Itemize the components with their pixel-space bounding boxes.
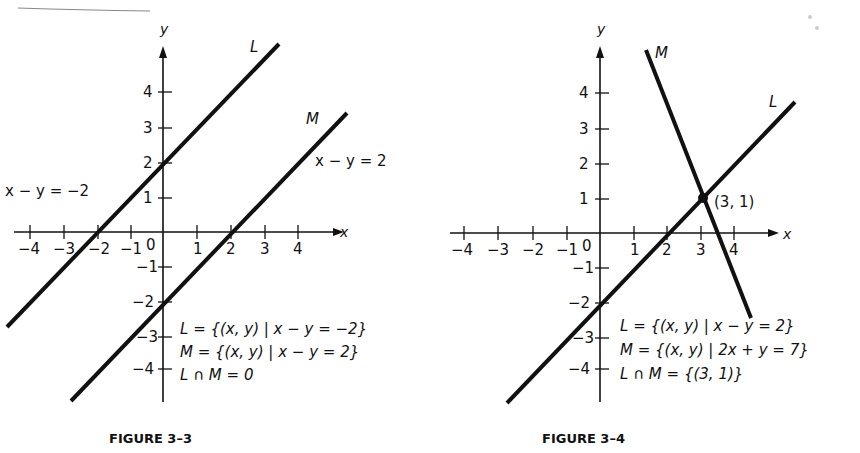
svg-text:3: 3 (696, 241, 706, 259)
x-axis-label: x (782, 226, 792, 242)
y-axis-label: y (596, 21, 606, 37)
y-axis-arrow-icon (159, 46, 167, 58)
svg-text:4: 4 (729, 241, 739, 259)
svg-text:−4: −4 (451, 241, 473, 259)
svg-text:−3: −3 (487, 241, 509, 259)
header-rule (18, 8, 150, 11)
svg-text:0: 0 (582, 237, 592, 255)
svg-text:4: 4 (579, 84, 589, 102)
svg-text:4: 4 (143, 83, 153, 101)
svg-text:4: 4 (293, 240, 303, 258)
svg-text:3: 3 (260, 240, 270, 258)
svg-text:−4: −4 (568, 360, 590, 378)
svg-text:L = {(x, y) | x − y = 2}: L = {(x, y) | x − y = 2} (620, 317, 795, 335)
line-M-label: M (655, 44, 668, 62)
svg-text:2: 2 (143, 154, 153, 172)
svg-text:M = {(x, y) | 2x + y = 7}: M = {(x, y) | 2x + y = 7} (620, 341, 809, 359)
line-L-label: L (250, 38, 258, 56)
svg-text:0: 0 (146, 236, 156, 254)
svg-text:−2: −2 (522, 241, 544, 259)
svg-text:L ∩ M = {(3, 1)}: L ∩ M = {(3, 1)} (620, 365, 743, 383)
figure-caption: FIGURE 3–4 (542, 431, 625, 446)
x-tick-labels: −4 −3 −2 −1 0 1 2 3 4 (18, 236, 303, 258)
svg-text:−2: −2 (88, 240, 110, 258)
svg-text:−1: −1 (572, 259, 594, 277)
svg-text:−2: −2 (568, 294, 590, 312)
figures-canvas: x y −4 −3 −2 −1 0 1 2 3 4 4 (0, 0, 860, 453)
svg-text:1: 1 (630, 241, 640, 259)
x-axis-arrow-icon (768, 229, 779, 237)
svg-text:−2: −2 (132, 293, 154, 311)
svg-text:1: 1 (579, 190, 589, 208)
svg-text:L ∩ M = 0: L ∩ M = 0 (180, 366, 253, 384)
intersection-point (698, 193, 708, 203)
svg-text:−3: −3 (53, 240, 75, 258)
y-axis-arrow-icon (596, 46, 604, 58)
set-definitions: L = {(x, y) | x − y = 2} M = {(x, y) | 2… (620, 317, 809, 383)
y-ticks (158, 92, 172, 369)
svg-text:1: 1 (193, 240, 203, 258)
svg-text:−1: −1 (556, 241, 578, 259)
svg-text:3: 3 (143, 119, 153, 137)
svg-text:−4: −4 (132, 360, 154, 378)
speck (808, 15, 812, 19)
svg-text:M = {(x, y) | x − y = 2}: M = {(x, y) | x − y = 2} (180, 343, 359, 361)
intersection-label: (3, 1) (714, 193, 754, 211)
svg-text:2: 2 (579, 155, 589, 173)
figure-caption: FIGURE 3–3 (109, 431, 192, 446)
line-M-label: M (306, 110, 319, 128)
set-definitions: L = {(x, y) | x − y = −2} M = {(x, y) | … (180, 320, 367, 384)
line-L-equation: x − y = −2 (5, 182, 89, 200)
svg-text:−1: −1 (136, 258, 158, 276)
svg-text:3: 3 (579, 120, 589, 138)
svg-text:1: 1 (143, 189, 153, 207)
line-M-equation: x − y = 2 (315, 152, 387, 170)
x-tick-labels: −4 −3 −2 −1 0 1 2 3 4 (451, 237, 739, 259)
figure-3-4: x y −4 −3 −2 −1 0 1 2 3 4 4 (450, 21, 809, 446)
line-M (646, 50, 751, 318)
x-axis-label: x (339, 224, 349, 240)
svg-text:2: 2 (662, 241, 672, 259)
svg-text:2: 2 (226, 240, 236, 258)
y-ticks (595, 93, 609, 369)
line-L-label: L (769, 93, 777, 111)
svg-text:L = {(x, y) | x − y = −2}: L = {(x, y) | x − y = −2} (180, 320, 367, 338)
svg-text:−1: −1 (120, 240, 142, 258)
speck (815, 26, 819, 30)
svg-text:−4: −4 (18, 240, 40, 258)
figure-3-3: x y −4 −3 −2 −1 0 1 2 3 4 4 (5, 21, 387, 446)
y-axis-label: y (159, 21, 169, 37)
